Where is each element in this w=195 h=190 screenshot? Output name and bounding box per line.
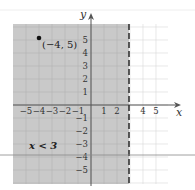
x-tick-label: −3 [46, 106, 59, 116]
x-tick-label: −5 [20, 106, 33, 116]
unshaded-region [129, 24, 168, 184]
x-axis-label: x [176, 106, 183, 119]
y-tick-label: −3 [75, 139, 88, 149]
point-marker [37, 36, 42, 41]
x-tick-label: −4 [33, 106, 46, 116]
y-tick-label: −5 [75, 165, 88, 175]
y-tick-label: 3 [83, 61, 88, 71]
x-tick-label: −2 [59, 106, 72, 116]
inequality-label: x < 3 [28, 140, 57, 151]
y-tick-label: 1 [83, 87, 88, 97]
y-tick-label: −1 [75, 113, 88, 123]
x-tick-label: 1 [101, 106, 106, 116]
y-tick-label: 5 [83, 35, 88, 45]
x-tick-label: 2 [114, 106, 119, 116]
y-axis-label: y [79, 8, 87, 21]
y-tick-label: −2 [75, 126, 88, 136]
inequality-graph: x y −5−4−3−2−11245 54321−1−2−3−4−5 (−4, … [0, 0, 195, 190]
x-tick-label: 5 [153, 106, 158, 116]
x-tick-label: 4 [140, 106, 145, 116]
y-tick-label: −4 [75, 152, 88, 162]
y-tick-label: 4 [83, 48, 88, 58]
point-label: (−4, 5) [42, 39, 77, 50]
y-tick-label: 2 [83, 74, 88, 84]
